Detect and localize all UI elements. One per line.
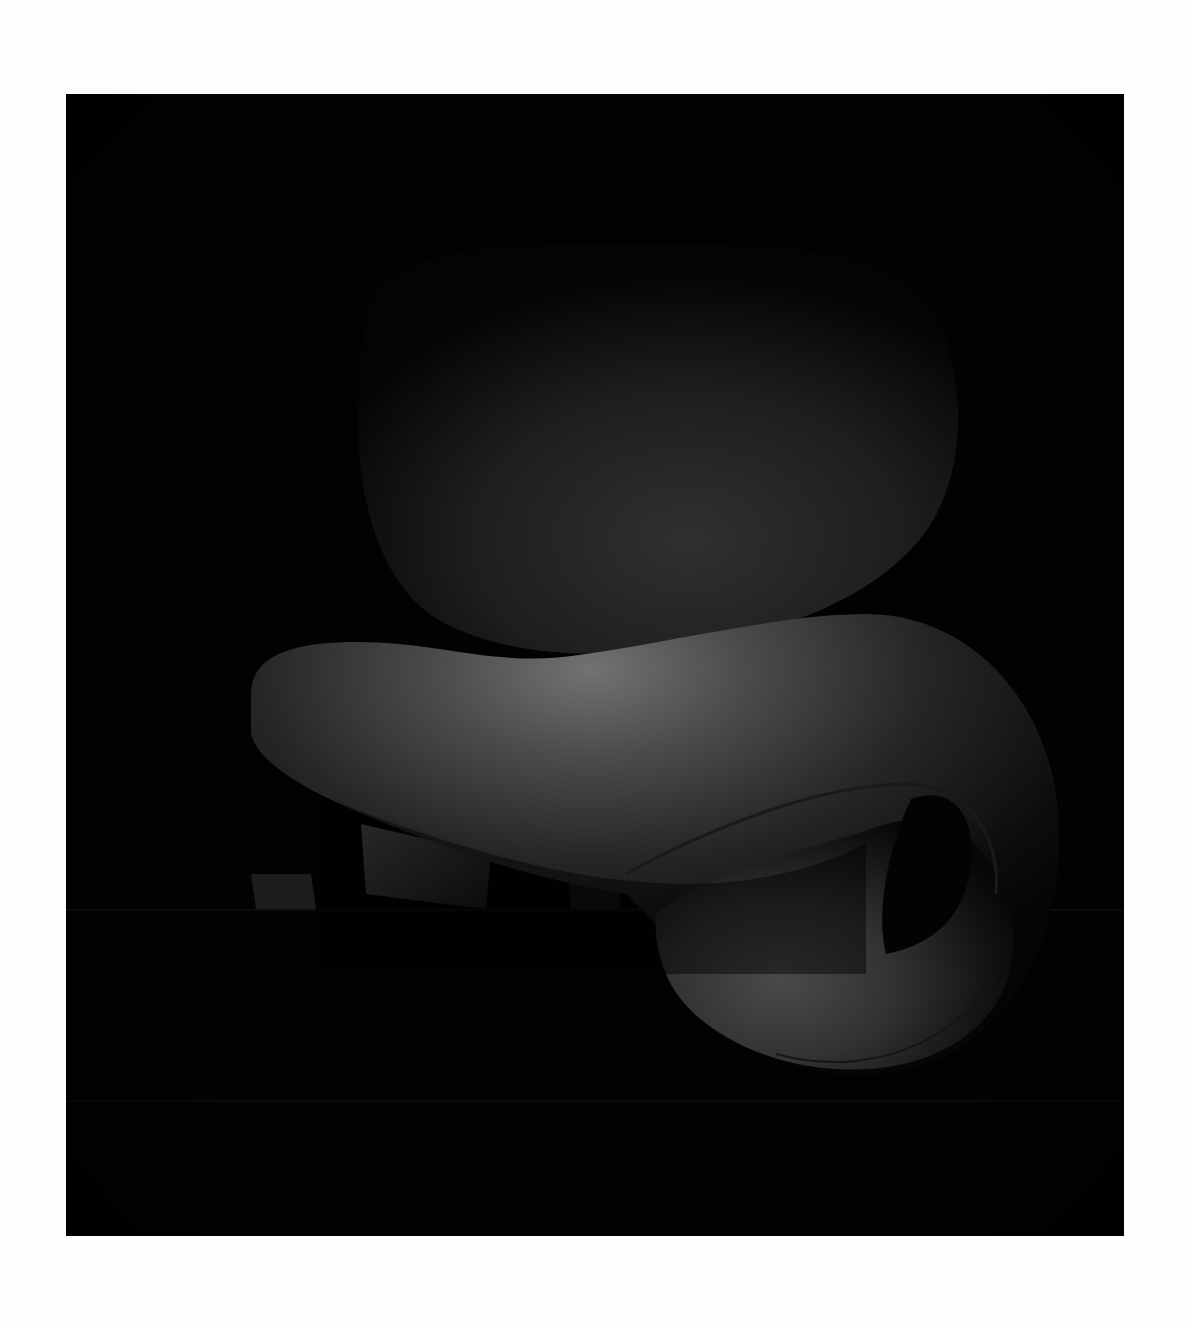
page: Black-and-white photograph of an organic… — [0, 0, 1188, 1326]
chair-illustration — [66, 94, 1124, 1236]
vignette — [66, 94, 1124, 1236]
photograph — [66, 94, 1124, 1236]
